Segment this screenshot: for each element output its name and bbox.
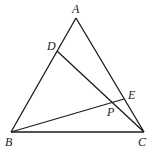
triangle-figure (0, 0, 154, 151)
geometry-diagram: A D E P B C (0, 0, 154, 151)
point-label-e: E (128, 89, 135, 101)
segment-AB (11, 18, 76, 132)
point-label-b: B (5, 136, 12, 148)
point-label-a: A (72, 3, 79, 15)
point-label-c: C (138, 136, 146, 148)
point-label-d: D (47, 40, 56, 52)
point-label-p: P (107, 106, 114, 118)
